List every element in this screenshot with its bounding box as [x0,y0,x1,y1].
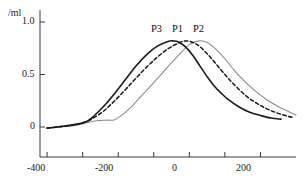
x-axis-ticks [47,152,260,157]
series-label-p3: P3 [151,24,162,35]
y-tick-label-0: 0 [30,121,35,131]
y-axis-unit-label: /ml [8,8,21,18]
x-tick-label-neg200: -200 [95,163,113,173]
x-tick-label-200: 200 [236,163,251,173]
y-tick-label-0.5: 0.5 [22,69,35,79]
x-tick-label-neg400: -400 [27,163,45,173]
series-curve-p3 [47,41,281,128]
y-axis-ticks [40,22,45,127]
chart-figure: /ml 1.0 0.5 0 -400 -200 0 200 P3 P1 P2 [0,0,306,180]
y-tick-label-1.0: 1.0 [22,16,35,26]
chart-series-group [47,41,296,128]
axes-group [40,10,296,157]
series-label-p2: P2 [193,24,204,35]
series-label-p1: P1 [172,24,183,35]
x-tick-label-0: 0 [172,163,177,173]
